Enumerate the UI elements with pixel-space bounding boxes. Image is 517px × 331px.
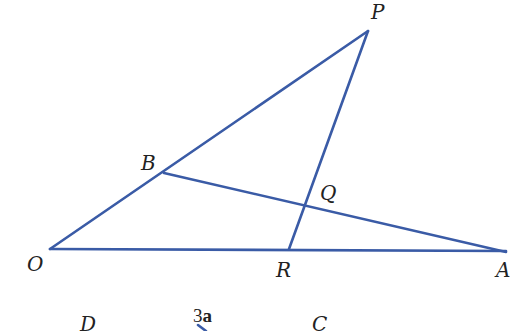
triangle-diagram bbox=[0, 0, 517, 331]
label-D: D bbox=[80, 314, 96, 331]
label-B: B bbox=[141, 153, 156, 173]
label-A: A bbox=[496, 260, 510, 280]
segment-OA bbox=[50, 249, 506, 251]
vector-label-3a: 3a bbox=[193, 306, 212, 325]
segment-OP bbox=[50, 31, 368, 249]
label-O: O bbox=[27, 254, 43, 274]
label-R: R bbox=[276, 260, 291, 280]
label-C: C bbox=[312, 314, 327, 331]
label-P: P bbox=[371, 2, 384, 22]
vector-coefficient: 3 bbox=[193, 305, 203, 326]
label-Q: Q bbox=[320, 183, 336, 203]
vector-symbol: a bbox=[203, 305, 213, 326]
